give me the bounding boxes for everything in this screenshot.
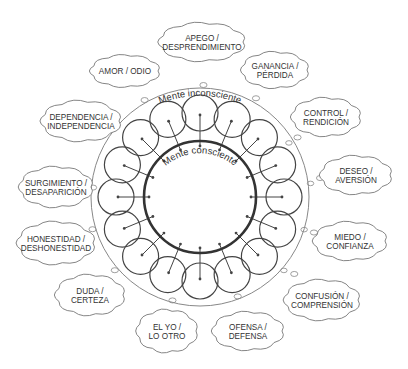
clouds: APEGO /DESPRENDIMIENTOGANANCIA /PÉRDIDAC… bbox=[16, 22, 391, 353]
cloud-label-line1: DUDA / bbox=[76, 287, 104, 296]
satellite-circle bbox=[182, 95, 218, 147]
cloud-label-line1: AMOR / ODIO bbox=[99, 67, 151, 76]
cloud-label-line1: CONTROL / bbox=[304, 109, 349, 118]
cloud-surgimiento: SURGIMIENTO /DESAPARICIÓN bbox=[18, 166, 92, 208]
cloud-label-line2: INDEPENDENCIA bbox=[47, 122, 115, 131]
cloud-label-line2: DEFENSA bbox=[229, 332, 268, 341]
cloud-label-line1: DEPENDENCIA / bbox=[49, 113, 113, 122]
cloud-label-line2: DESAPARICIÓN bbox=[25, 187, 86, 197]
satellite-circle bbox=[250, 179, 302, 215]
cloud-honestidad: HONESTIDAD /DESHONESTIDAD bbox=[16, 221, 94, 265]
cloud-miedo: MIEDO /CONFIANZA bbox=[312, 221, 386, 261]
satellite-circle bbox=[235, 120, 278, 163]
satellite-circles bbox=[98, 95, 302, 299]
thought-bubble-dot bbox=[310, 230, 317, 235]
cloud-label-line2: DESHONESTIDAD bbox=[21, 244, 92, 253]
cloud-label-line1: APEGO / bbox=[185, 34, 219, 43]
cloud-dependencia: DEPENDENCIA /INDEPENDENCIA bbox=[40, 100, 121, 142]
conscious-mind-circle bbox=[144, 141, 256, 253]
cloud-label-line2: AVERSIÓN bbox=[335, 175, 377, 185]
satellite-circle bbox=[182, 247, 218, 299]
cloud-label-line1: EL YO / bbox=[153, 323, 182, 332]
satellite-circle bbox=[235, 232, 278, 275]
cloud-label-line1: DESEO / bbox=[339, 167, 373, 176]
cloud-ofensa: OFENSA /DEFENSA bbox=[211, 311, 283, 351]
cloud-duda: DUDA /CERTEZA bbox=[54, 274, 124, 316]
cloud-label-line2: CONFIANZA bbox=[326, 242, 374, 251]
unconscious-mind-label: Mente inconsciente bbox=[157, 87, 243, 105]
cloud-label-line2: LO OTRO bbox=[149, 332, 186, 341]
thought-bubble-dot bbox=[200, 83, 207, 88]
cloud-label-line2: PÉRDIDA bbox=[257, 70, 294, 80]
cloud-label-line1: SURGIMIENTO / bbox=[25, 179, 88, 188]
cloud-label-line2: COMPRENSIÓN bbox=[291, 300, 353, 310]
cloud-deseo: DESEO /AVERSIÓN bbox=[319, 155, 391, 195]
cloud-label-line2: CERTEZA bbox=[71, 296, 110, 305]
cloud-apego: APEGO /DESPRENDIMIENTO bbox=[158, 22, 245, 62]
thought-bubble-dot bbox=[252, 96, 259, 101]
thought-bubbles bbox=[89, 83, 324, 303]
cloud-control: CONTROL /RENDICIÓN bbox=[290, 97, 360, 137]
cloud-label-line1: GANANCIA / bbox=[252, 62, 300, 71]
cloud-amor: AMOR / ODIO bbox=[89, 55, 159, 88]
cloud-label-line1: CONFUSIÓN / bbox=[295, 291, 349, 301]
thought-bubble-dot bbox=[294, 135, 301, 140]
cloud-label-line2: RENDICIÓN bbox=[303, 117, 349, 127]
cloud-label-line1: OFENSA / bbox=[229, 323, 267, 332]
satellite-circle bbox=[98, 179, 150, 215]
thought-bubble-dot bbox=[286, 141, 293, 146]
satellite-circle bbox=[123, 232, 166, 275]
cloud-label-line2: DESPRENDIMIENTO bbox=[162, 43, 241, 52]
cloud-label-line1: MIEDO / bbox=[334, 233, 366, 242]
cloud-yo: EL YO /LO OTRO bbox=[136, 309, 197, 353]
mind-diagram: Mente inconsciente Mente consciente APEG… bbox=[0, 0, 408, 369]
cloud-label-line1: HONESTIDAD / bbox=[27, 235, 86, 244]
thought-bubble-dot bbox=[291, 271, 298, 276]
satellite-circle bbox=[123, 120, 166, 163]
cloud-ganancia: GANANCIA /PÉRDIDA bbox=[240, 51, 308, 88]
cloud-confusion: CONFUSIÓN /COMPRENSIÓN bbox=[283, 279, 359, 321]
